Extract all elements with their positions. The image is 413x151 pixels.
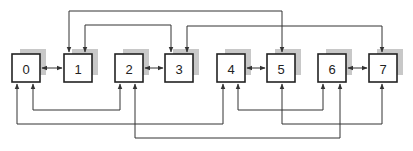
edge-3-7 (187, 26, 382, 52)
node-label-0: 0 (22, 62, 29, 77)
nodes (12, 54, 397, 82)
hypercube-diagram: 0 1 2 3 4 5 6 7 (0, 0, 413, 151)
edge-4-6 (238, 84, 323, 110)
node-label-7: 7 (379, 62, 386, 77)
edge-1-3 (85, 25, 171, 52)
node-label-4: 4 (227, 62, 234, 77)
node-label-3: 3 (175, 62, 182, 77)
node-label-5: 5 (277, 62, 284, 77)
edge-1-5 (69, 11, 282, 52)
node-label-1: 1 (74, 62, 81, 77)
node-label-6: 6 (328, 62, 335, 77)
edge-0-2 (33, 84, 120, 110)
edge-5-7 (282, 84, 382, 124)
node-label-2: 2 (125, 62, 132, 77)
